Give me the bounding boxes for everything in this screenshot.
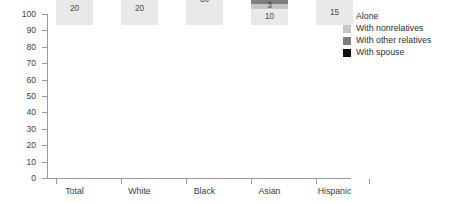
bar-segment[interactable]: 10 [251,9,288,25]
x-axis-category-label: Hispanic [303,187,367,196]
y-axis-tick [42,30,47,31]
y-axis-tick-label: 100 [8,10,36,19]
legend-swatch-icon [343,49,351,57]
y-axis-labels: 1009080706050403020100 [0,0,40,203]
x-axis-tick [186,179,187,184]
y-axis-tick-label: 90 [8,26,36,35]
y-axis-tick-label: 30 [8,125,36,134]
legend-item-label: With nonrelatives [356,24,423,33]
y-axis-tick [42,96,47,97]
bar-stack[interactable]: 7810310 [251,0,288,25]
bar-segment-value: 30 [200,0,209,5]
bar-segment-value: 20 [70,5,79,13]
legend-item[interactable]: With other relatives [343,35,449,46]
y-axis-tick [42,63,47,64]
legend-item[interactable]: Alone [343,11,449,22]
bar-segment[interactable]: 30 [186,0,223,25]
y-axis-tick [42,129,47,130]
y-axis-tick [42,145,47,146]
y-axis-tick-label: 40 [8,108,36,117]
bar-stack[interactable]: 724320 [121,0,158,25]
x-axis-tick [316,179,317,184]
x-axis-tick [121,179,122,184]
x-axis-line [47,178,351,179]
bar-stack[interactable]: 5014630 [186,0,223,25]
x-axis-category-label: Total [43,187,107,196]
legend-swatch-icon [343,25,351,33]
x-axis-tick [369,179,370,184]
bar-segment-value: 10 [265,13,274,21]
y-axis-line [47,14,48,179]
y-axis-tick [42,112,47,113]
y-axis-tick-label: 10 [8,158,36,167]
y-axis-tick [42,178,47,179]
y-axis-tick [42,47,47,48]
x-axis-category-label: Asian [238,187,302,196]
y-axis-tick-label: 80 [8,43,36,52]
y-axis-tick-label: 70 [8,59,36,68]
x-axis-category-label: Black [173,187,237,196]
x-axis-tick [56,179,57,184]
legend-item-label: With other relatives [356,36,431,45]
y-axis-tick [42,162,47,163]
stacked-bar-chart: 1009080706050403020100 706420Total724320… [0,0,451,203]
y-axis-tick-label: 0 [8,174,36,183]
y-axis-tick-label: 20 [8,141,36,150]
bar-segment-value: 20 [135,5,144,13]
bar-segment-value: 15 [330,9,339,17]
y-axis-tick [42,14,47,15]
bar-segment[interactable]: 20 [121,0,158,25]
legend-swatch-icon [343,13,351,21]
legend-item[interactable]: With spouse [343,47,449,58]
legend-item-label: Alone [356,12,379,21]
legend-item[interactable]: With nonrelatives [343,23,449,34]
y-axis-tick-label: 50 [8,92,36,101]
chart-legend: AloneWith nonrelativesWith other relativ… [343,11,449,59]
bar-segment[interactable]: 20 [56,0,93,25]
y-axis-tick-label: 60 [8,76,36,85]
legend-swatch-icon [343,37,351,45]
x-axis-tick [251,179,252,184]
y-axis-tick [42,80,47,81]
bar-stack[interactable]: 706420 [56,0,93,25]
x-axis-category-label: White [108,187,172,196]
legend-item-label: With spouse [356,48,404,57]
